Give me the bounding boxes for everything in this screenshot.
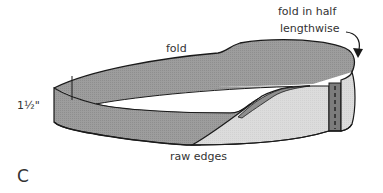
label-fold-in-half: fold in half [278,5,336,18]
folded-band-diagram: fold in half lengthwise fold 1½" raw edg… [0,0,383,193]
arrow-head-icon [353,48,363,58]
curved-arrow [346,32,359,50]
band-right-end [341,72,355,131]
label-width: 1½" [17,99,40,112]
label-raw-edges: raw edges [170,150,227,163]
label-fold: fold [166,42,187,55]
label-lengthwise: lengthwise [280,22,340,35]
figure-letter: C [17,167,29,185]
